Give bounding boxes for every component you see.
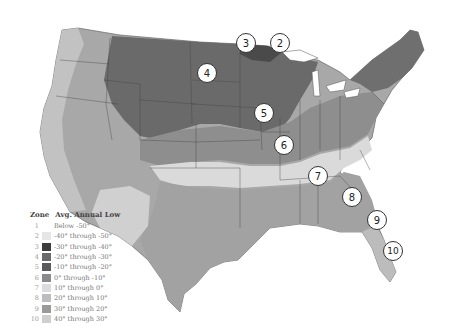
- legend-range: -10° through -20°: [54, 263, 112, 271]
- zone-marker-7: 7: [308, 166, 328, 186]
- legend-swatch: [42, 294, 51, 302]
- legend-zone-number: 5: [30, 263, 39, 271]
- legend-row: 3-30° through -40°: [30, 242, 160, 252]
- legend-range: 30° through 20°: [54, 305, 108, 313]
- legend-swatch: [42, 243, 51, 251]
- legend-swatch: [42, 274, 51, 282]
- legend-row: 1040° through 30°: [30, 314, 160, 324]
- legend-range: 40° through 30°: [54, 315, 108, 323]
- legend-row: 710° through 0°: [30, 283, 160, 293]
- zone-marker-5: 5: [254, 103, 274, 123]
- legend-swatch: [42, 253, 51, 261]
- legend-swatch: [42, 305, 51, 313]
- legend-range: Below -50°: [54, 222, 90, 230]
- legend-header: ZoneAvg. Annual Low: [30, 210, 160, 219]
- legend-swatch: [42, 315, 51, 323]
- legend-swatch: [42, 263, 51, 271]
- zone-marker-8: 8: [342, 187, 362, 207]
- zone-marker-9: 9: [367, 210, 387, 230]
- legend-temp-header: Avg. Annual Low: [55, 210, 120, 219]
- legend-zone-header: Zone: [30, 210, 49, 219]
- legend-zone-number: 8: [30, 294, 39, 302]
- legend-row: 930° through 20°: [30, 303, 160, 313]
- legend-zone-number: 7: [30, 284, 39, 292]
- legend-range: -20° through -30°: [54, 253, 112, 261]
- legend-zone-number: 3: [30, 243, 39, 251]
- legend-range: 10° through 0°: [54, 284, 103, 292]
- legend-row: 2-40° through -50°: [30, 231, 160, 241]
- legend-row: 4-20° through -30°: [30, 252, 160, 262]
- zone-legend: ZoneAvg. Annual Low 1Below -50° 2-40° th…: [30, 210, 160, 324]
- legend-range: 20° through 10°: [54, 294, 108, 302]
- legend-row: 5-10° through -20°: [30, 262, 160, 272]
- zone-marker-3: 3: [236, 33, 256, 53]
- zone-marker-4: 4: [197, 63, 217, 83]
- legend-swatch: [42, 222, 51, 230]
- zone-marker-6: 6: [274, 135, 294, 155]
- legend-swatch: [42, 284, 51, 292]
- legend-zone-number: 2: [30, 232, 39, 240]
- legend-zone-number: 6: [30, 274, 39, 282]
- zone-marker-10: 10: [383, 241, 403, 261]
- legend-zone-number: 10: [30, 315, 39, 323]
- legend-swatch: [42, 232, 51, 240]
- legend-zone-number: 9: [30, 305, 39, 313]
- northeast-region: [350, 30, 424, 92]
- legend-range: -40° through -50°: [54, 232, 112, 240]
- legend-range: -30° through -40°: [54, 243, 112, 251]
- legend-zone-number: 1: [30, 222, 39, 230]
- legend-range: 0° through -10°: [54, 274, 106, 282]
- legend-zone-number: 4: [30, 253, 39, 261]
- legend-row: 820° through 10°: [30, 293, 160, 303]
- legend-row: 1Below -50°: [30, 221, 160, 231]
- zone-marker-2: 2: [270, 33, 290, 53]
- legend-row: 60° through -10°: [30, 272, 160, 282]
